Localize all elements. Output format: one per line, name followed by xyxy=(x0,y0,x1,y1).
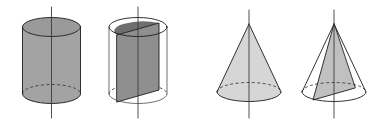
figure-shaded-cone xyxy=(217,10,281,118)
geometry-figure-svg xyxy=(0,0,387,125)
geometry-figure-panel xyxy=(0,0,387,125)
figure-cylinder-rect-section xyxy=(109,7,167,118)
figure-shaded-cylinder xyxy=(23,7,81,118)
figure-cone-triangle-section xyxy=(302,10,366,118)
